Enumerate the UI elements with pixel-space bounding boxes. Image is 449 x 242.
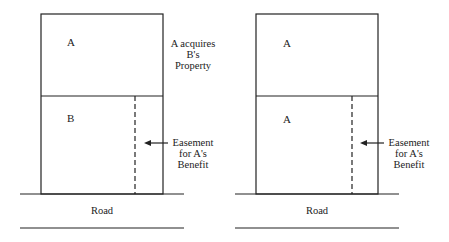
right-road-label: Road xyxy=(297,205,337,216)
left-property-outline xyxy=(41,14,163,194)
right-easement-label: Easement for A's Benefit xyxy=(385,137,433,170)
left-road-label: Road xyxy=(82,205,122,216)
right-property-outline xyxy=(256,14,378,194)
left-upper-parcel-label: A xyxy=(67,36,75,48)
left-easement-label: Easement for A's Benefit xyxy=(169,137,217,170)
right-lower-parcel-label: A xyxy=(283,113,291,125)
left-lower-parcel-label: B xyxy=(67,112,74,124)
left-acquisition-note: A acquires B's Property xyxy=(166,38,220,71)
right-upper-parcel-label: A xyxy=(283,37,291,49)
left-arrowhead-icon xyxy=(144,140,151,146)
right-arrowhead-icon xyxy=(360,140,367,146)
